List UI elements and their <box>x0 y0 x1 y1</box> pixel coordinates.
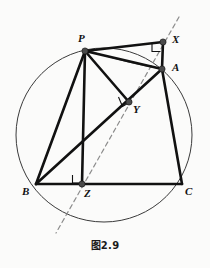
vertex-Y <box>126 99 132 105</box>
vertex-X <box>160 39 166 45</box>
segment-PX <box>85 42 163 51</box>
point-label-A: A <box>172 62 179 73</box>
point-label-P: P <box>78 33 85 44</box>
segment-XA <box>162 42 163 69</box>
segment-AC <box>162 69 182 184</box>
segment-BA <box>36 69 162 184</box>
segment-PZ <box>82 51 85 184</box>
figure-caption: 图2.9 <box>0 237 210 252</box>
point-label-C: C <box>185 186 192 197</box>
point-label-B: B <box>22 186 29 197</box>
segment-PB <box>36 51 85 184</box>
vertex-A <box>159 66 165 72</box>
vertex-P <box>82 48 88 54</box>
point-label-X: X <box>172 34 179 45</box>
point-label-Z: Z <box>84 188 91 199</box>
right-angle-Z <box>73 175 81 183</box>
point-label-Y: Y <box>133 104 140 115</box>
figure-container: P X A Y B Z C 图2.9 <box>0 0 210 268</box>
